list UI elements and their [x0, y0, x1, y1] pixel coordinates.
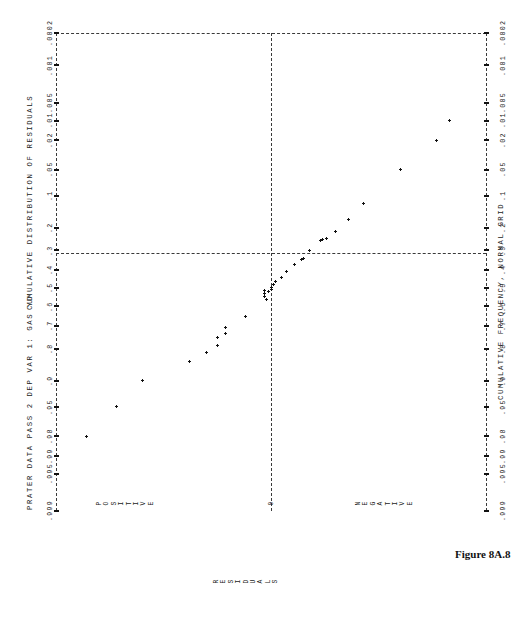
figure-page: PRATER DATA PASS 2 DEP VAR 1: GAS YD CUM… — [0, 0, 518, 624]
probability-tick — [54, 287, 59, 289]
data-point — [435, 139, 438, 142]
data-point — [334, 230, 337, 233]
probability-tick — [484, 325, 489, 327]
data-point — [293, 263, 296, 266]
probability-tick-label: .001 — [500, 55, 507, 76]
probability-tick-label: .95 — [47, 399, 54, 415]
probability-tick — [54, 64, 59, 66]
probability-tick — [54, 473, 59, 475]
data-point — [272, 283, 275, 286]
probability-tick-label: .005 — [500, 92, 507, 113]
probability-tick-label: .7 — [47, 321, 54, 332]
data-point — [224, 326, 227, 329]
data-point — [270, 286, 273, 289]
probability-tick-label: .9 — [47, 375, 54, 386]
probability-tick — [54, 406, 59, 408]
probability-tick — [54, 348, 59, 350]
data-point — [321, 238, 324, 241]
data-point — [285, 270, 288, 273]
residual-zero-label: 0 — [268, 500, 275, 507]
probability-tick — [54, 305, 59, 307]
probability-tick-label: .8 — [500, 344, 507, 355]
data-point — [448, 119, 451, 122]
probability-tick — [484, 195, 489, 197]
data-point — [267, 290, 270, 293]
data-point — [280, 276, 283, 279]
data-point — [263, 292, 266, 295]
data-point — [399, 168, 402, 171]
probability-tick-label: .995 — [47, 463, 54, 484]
zero-residual-reference-line — [271, 33, 272, 511]
data-point — [224, 332, 227, 335]
probability-tick — [484, 473, 489, 475]
probability-tick-label: .8 — [47, 344, 54, 355]
probability-tick-label: .99 — [47, 448, 54, 464]
data-point — [308, 249, 311, 252]
probability-tick — [484, 102, 489, 104]
probability-tick — [484, 32, 489, 34]
probability-tick — [484, 348, 489, 350]
probability-tick — [54, 325, 59, 327]
data-point — [205, 351, 208, 354]
probability-tick — [484, 169, 489, 171]
probability-tick — [54, 195, 59, 197]
probability-tick — [484, 227, 489, 229]
probability-tick-label: .2 — [500, 222, 507, 233]
data-point — [216, 336, 219, 339]
residual-negative-label: NEGATIVE — [355, 500, 414, 507]
probability-tick — [54, 139, 59, 141]
probability-tick — [54, 510, 59, 512]
probability-tick-label: .4 — [47, 265, 54, 276]
probability-tick-label: .999 — [500, 500, 507, 521]
probability-tick-label: .001 — [47, 55, 54, 76]
probability-tick — [54, 169, 59, 171]
probability-tick — [484, 249, 489, 251]
probability-tick-label: .4 — [500, 265, 507, 276]
probability-tick — [54, 455, 59, 457]
residual-axis-label: RESIDUALS — [213, 578, 280, 585]
probability-tick — [484, 287, 489, 289]
probability-tick-label: .3 — [500, 245, 507, 256]
probability-tick-label: .02 — [47, 132, 54, 148]
probability-tick — [484, 510, 489, 512]
probability-tick — [484, 305, 489, 307]
data-point — [347, 218, 350, 221]
probability-tick-label: .6 — [47, 301, 54, 312]
probability-tick-label: .7 — [500, 321, 507, 332]
probability-tick — [484, 139, 489, 141]
figure-caption: Figure 8A.8 — [455, 548, 510, 560]
probability-tick — [54, 227, 59, 229]
data-point — [188, 360, 191, 363]
probability-tick — [54, 32, 59, 34]
probability-tick-label: .995 — [500, 463, 507, 484]
probability-tick — [54, 120, 59, 122]
data-point — [263, 289, 266, 292]
probability-tick-label: .05 — [47, 162, 54, 178]
probability-tick — [484, 406, 489, 408]
probability-tick — [54, 249, 59, 251]
probability-tick-label: .98 — [47, 428, 54, 444]
probability-tick-label: .95 — [500, 399, 507, 415]
probability-tick-label: .05 — [500, 162, 507, 178]
data-point — [265, 298, 268, 301]
data-point — [216, 344, 219, 347]
data-point — [141, 379, 144, 382]
probability-tick-label: .98 — [500, 428, 507, 444]
probability-tick-label: .0002 — [47, 20, 54, 46]
probability-tick — [484, 380, 489, 382]
probability-tick-label: .1 — [500, 191, 507, 202]
probability-tick — [484, 64, 489, 66]
probability-tick-label: .01 — [47, 113, 54, 129]
probability-tick — [54, 435, 59, 437]
probability-tick-label: .5 — [47, 283, 54, 294]
probability-tick-label: .005 — [47, 92, 54, 113]
probability-tick-label: .1 — [47, 191, 54, 202]
data-point — [325, 237, 328, 240]
probability-tick-label: .02 — [500, 132, 507, 148]
probability-tick — [54, 269, 59, 271]
probability-tick — [54, 380, 59, 382]
probability-tick — [484, 269, 489, 271]
probability-tick — [484, 455, 489, 457]
probability-tick-label: .01 — [500, 113, 507, 129]
plot-header-left: PRATER DATA PASS 2 DEP VAR 1: GAS YD — [26, 295, 34, 510]
